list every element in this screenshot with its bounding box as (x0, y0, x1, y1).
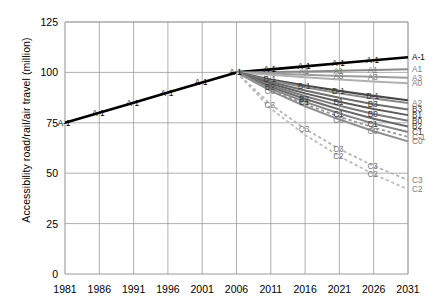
x-tick-label: 2001 (191, 283, 215, 295)
y-tick-label: 25 (46, 218, 58, 230)
series-point-label: C3 (412, 176, 423, 185)
series-point-label: C2 (367, 170, 378, 179)
x-tick-label: 2016 (293, 283, 317, 295)
series-point-label: A0 (412, 79, 422, 88)
x-tick-label: 1986 (88, 283, 112, 295)
x-tick-label: 2026 (362, 283, 386, 295)
chart-canvas: 0255075100125198119861991199620012006201… (0, 0, 438, 308)
y-tick-label: 125 (40, 16, 58, 28)
series-point-label: C0 (265, 87, 276, 96)
series-point-label: B0 (368, 110, 378, 119)
x-tick-label: 2006 (225, 283, 249, 295)
series-point-label: A-1 (58, 119, 71, 128)
y-tick-label: 75 (46, 117, 58, 129)
series-point-label: A-1 (195, 78, 208, 87)
series-point-label: A-1 (366, 56, 379, 65)
grid-layer (65, 22, 408, 274)
accessibility-travel-chart: Accessibility road/rail/air travel (mill… (0, 0, 438, 308)
series-point-label: A3 (368, 73, 378, 82)
series-point-label: A-1 (412, 53, 425, 62)
series-point-label: C2 (333, 152, 344, 161)
series-point-label: C0 (333, 116, 344, 125)
series-point-label: A-1 (126, 99, 139, 108)
x-tick-label: 2021 (328, 283, 352, 295)
series-point-label: A3 (333, 72, 343, 81)
series-point-label: A1 (299, 67, 309, 76)
series-point-label: A-1 (229, 68, 242, 77)
y-tick-label: 0 (52, 268, 58, 280)
x-tick-label: 1996 (156, 283, 180, 295)
series-point-label: A-1 (161, 89, 174, 98)
series-point-label: B3 (368, 100, 378, 109)
x-tick-label: 2011 (260, 283, 283, 295)
series-point-label: C2 (412, 185, 423, 194)
x-tick-label: 1981 (53, 283, 77, 295)
x-tick-label: 1991 (122, 283, 146, 295)
axis-layer: 0255075100125198119861991199620012006201… (40, 16, 419, 295)
series-point-label: A-1 (263, 65, 276, 74)
y-tick-label: 50 (46, 167, 58, 179)
x-tick-label: 2031 (396, 283, 420, 295)
series-point-label: B1 (333, 98, 343, 107)
series-point-label: B-1 (332, 87, 345, 96)
series-point-label: B-1 (298, 82, 311, 91)
series-point-label: C0 (367, 127, 378, 136)
series-point-label: A-1 (92, 109, 105, 118)
series-point-label: C1 (299, 98, 310, 107)
series-point-label: C3 (265, 101, 276, 110)
series-point-label: C3 (299, 125, 310, 134)
series-point-label: C0 (412, 137, 423, 146)
y-tick-label: 100 (40, 66, 58, 78)
